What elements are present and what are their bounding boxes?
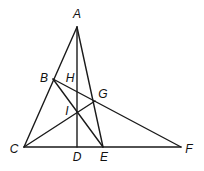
label-F: F	[185, 142, 193, 156]
geometry-diagram: A B H G I C D E F	[0, 0, 204, 171]
label-D: D	[73, 150, 82, 164]
segment-BF	[53, 79, 181, 147]
label-B: B	[40, 71, 48, 85]
label-I: I	[65, 104, 69, 118]
label-C: C	[10, 142, 19, 156]
label-A: A	[72, 7, 81, 21]
label-E: E	[100, 150, 109, 164]
label-H: H	[66, 71, 75, 85]
label-G: G	[98, 87, 107, 101]
